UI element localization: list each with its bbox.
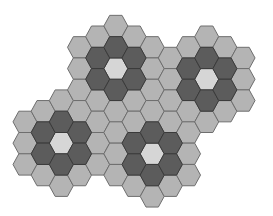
hex-tiling-diagram <box>0 0 273 216</box>
hex-cell-petal <box>68 143 92 164</box>
hex-cell-petal <box>213 58 237 79</box>
hex-cell-petal <box>158 133 182 154</box>
hex-cell-petal <box>122 47 146 68</box>
hex-cell-petal <box>213 79 237 100</box>
hex-cell-petal <box>158 154 182 175</box>
hex-cells-layer <box>13 15 255 207</box>
hex-cell-petal <box>122 69 146 90</box>
hex-cell-petal <box>68 122 92 143</box>
